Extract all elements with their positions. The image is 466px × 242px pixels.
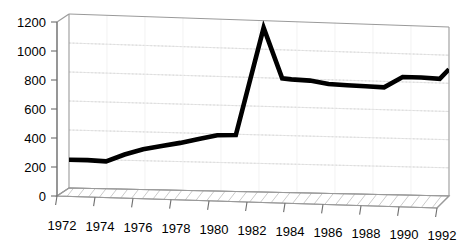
x-tick-labels: 1972 1974 1976 1978 1980 1982 1984 1986 … bbox=[48, 218, 457, 242]
x-tick-label: 1976 bbox=[124, 220, 153, 235]
x-tick-label: 1980 bbox=[200, 222, 229, 237]
x-tick-label: 1984 bbox=[276, 224, 305, 239]
y-tick-label: 200 bbox=[24, 160, 46, 175]
x-tick-label: 1978 bbox=[162, 221, 191, 236]
x-tick-label: 1986 bbox=[314, 225, 343, 240]
y-tick-label: 1000 bbox=[17, 44, 46, 59]
y-axis bbox=[51, 22, 57, 196]
y-tick-label: 400 bbox=[24, 131, 46, 146]
y-tick-label: 600 bbox=[24, 102, 46, 117]
x-tick-label: 1974 bbox=[86, 219, 115, 234]
y-tick-label: 1200 bbox=[17, 15, 46, 30]
plot-depth-edges bbox=[57, 14, 69, 196]
x-tick-label: 1982 bbox=[238, 223, 267, 238]
y-tick-label: 800 bbox=[24, 73, 46, 88]
x-tick-label: 1990 bbox=[390, 227, 419, 242]
x-tick-label: 1988 bbox=[352, 226, 381, 241]
line-chart-3d: 1200 1000 800 600 400 200 0 1972 1974 bbox=[0, 0, 466, 242]
chart-container: 1200 1000 800 600 400 200 0 1972 1974 bbox=[0, 0, 466, 242]
y-tick-labels: 1200 1000 800 600 400 200 0 bbox=[17, 15, 46, 204]
x-tick-label: 1972 bbox=[48, 218, 77, 233]
x-tick-label: 1992 bbox=[428, 228, 457, 242]
y-tick-label: 0 bbox=[39, 189, 46, 204]
